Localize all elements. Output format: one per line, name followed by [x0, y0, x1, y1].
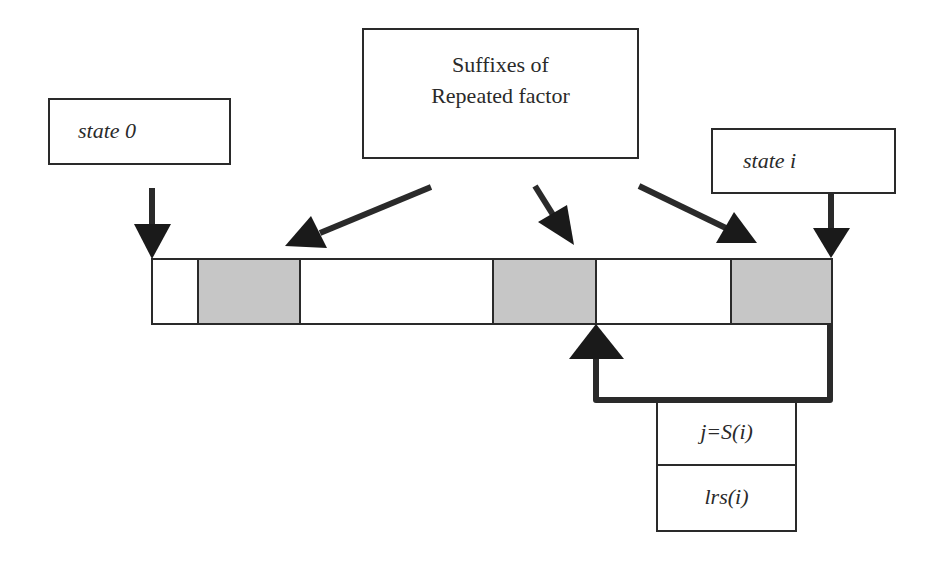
arrows-layer	[0, 0, 942, 566]
suffix-arrow-right-icon	[639, 186, 757, 243]
state-0-arrow-icon	[134, 188, 171, 259]
suffix-arrow-middle-icon	[535, 186, 574, 245]
suffix-link-loop-arrow-icon	[569, 323, 830, 400]
suffix-arrow-left-icon	[285, 187, 431, 248]
state-i-arrow-icon	[813, 193, 850, 258]
